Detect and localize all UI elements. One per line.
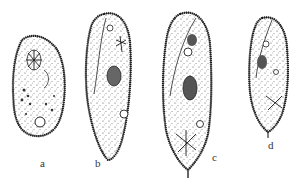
- label-d: d: [268, 140, 274, 151]
- organism-a: [13, 36, 65, 136]
- label-a: a: [40, 158, 45, 169]
- organism-c: [163, 13, 211, 178]
- label-c: c: [212, 152, 217, 163]
- label-b: b: [95, 158, 101, 169]
- organism-d: [249, 17, 288, 138]
- organism-b: [86, 13, 131, 160]
